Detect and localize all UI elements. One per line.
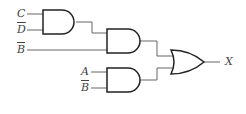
- input-label-dbar: D: [17, 24, 26, 35]
- input-label-bbar-1: B: [17, 44, 25, 55]
- output-label-x: X: [225, 56, 233, 67]
- and-gate-2: [107, 29, 140, 53]
- logic-circuit-diagram: C D B A B X: [0, 0, 246, 114]
- and-gate-1: [43, 10, 74, 34]
- wire-and3-or: [140, 68, 174, 80]
- input-label-c: C: [17, 8, 25, 19]
- input-label-a: A: [81, 66, 89, 77]
- wire-and1-and2: [76, 22, 107, 33]
- input-label-bbar-2: B: [81, 82, 89, 93]
- wire-and2-or: [140, 41, 174, 56]
- and-gate-3: [107, 68, 140, 92]
- circuit-svg: [0, 0, 246, 114]
- or-gate: [171, 50, 204, 74]
